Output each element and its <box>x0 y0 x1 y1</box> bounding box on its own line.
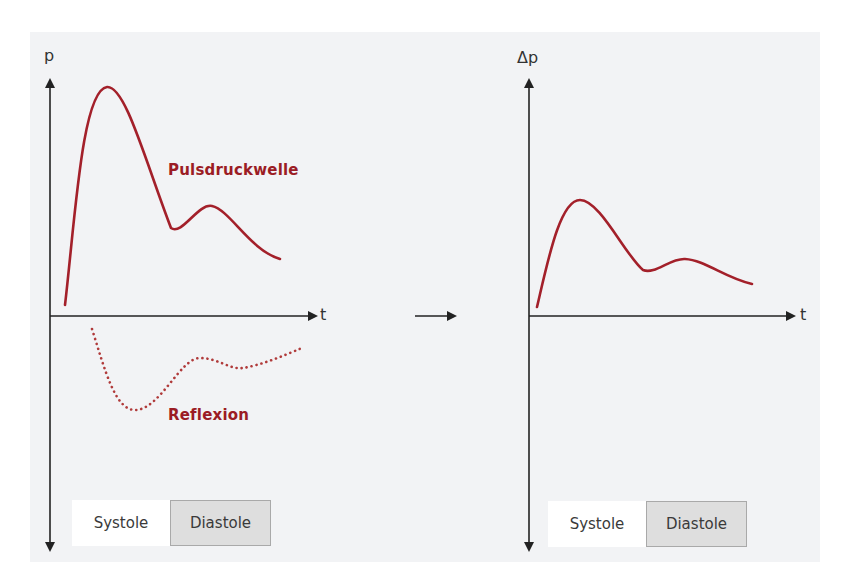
left-phase-legend: Systole Diastole <box>72 500 271 546</box>
right-axes <box>529 80 794 550</box>
legend-systole: Systole <box>548 501 646 547</box>
legend-diastole: Diastole <box>170 500 271 546</box>
left-x-axis-label: t <box>320 307 326 323</box>
resulting-pressure-curve <box>537 200 752 307</box>
reflexion-label: Reflexion <box>168 408 249 423</box>
right-x-axis-label: t <box>800 307 806 323</box>
pulsdruckwelle-curve <box>65 87 280 305</box>
reflexion-curve <box>92 329 302 410</box>
right-y-axis-label: Δp <box>517 50 538 66</box>
pulsdruckwelle-label: Pulsdruckwelle <box>168 163 299 178</box>
legend-systole: Systole <box>72 500 170 546</box>
left-axes <box>50 80 316 550</box>
legend-diastole: Diastole <box>646 501 747 547</box>
left-y-axis-label: p <box>44 48 54 64</box>
right-phase-legend: Systole Diastole <box>548 501 747 547</box>
